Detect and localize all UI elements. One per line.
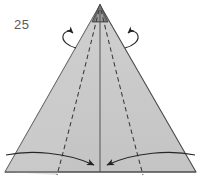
diagram-canvas: 25 [0,0,201,180]
origami-step-figure: 25 [0,0,201,180]
step-number-label: 25 [14,17,29,32]
right-rotate-arrow [125,31,138,48]
left-rotate-arrow [63,31,76,48]
